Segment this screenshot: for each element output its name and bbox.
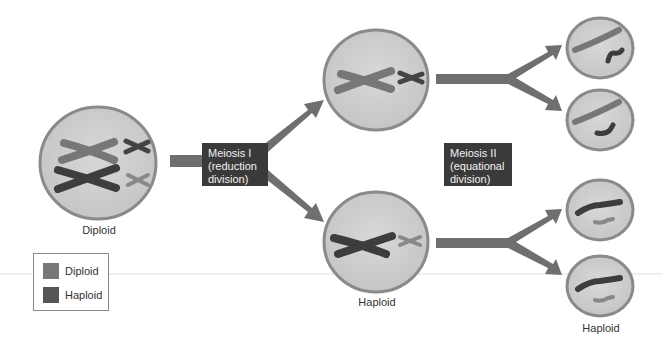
legend-swatch-haploid xyxy=(43,287,59,303)
meiosis2-stage-box: Meiosis II (equational division) xyxy=(444,143,512,186)
label-meiosis1-haploid: Haploid xyxy=(350,296,404,308)
meiosis2-desc-line2: division) xyxy=(450,173,506,186)
label-parent-diploid: Diploid xyxy=(72,224,126,236)
legend-swatch-diploid xyxy=(43,263,59,279)
cell-meiosis2-4 xyxy=(567,256,633,316)
meiosis2-desc-line1: (equational xyxy=(450,160,506,173)
arrow-parent-to-meiosis1 xyxy=(170,155,206,167)
meiosis1-desc-line2: division) xyxy=(208,173,262,186)
legend-item-diploid: Diploid xyxy=(43,263,99,279)
meiosis1-title: Meiosis I xyxy=(208,147,262,160)
cell-meiosis1-top xyxy=(324,30,428,130)
meiosis1-stage-box: Meiosis I (reduction division) xyxy=(202,143,268,186)
cell-meiosis2-2 xyxy=(567,90,633,150)
legend: Diploid Haploid xyxy=(33,253,109,311)
meiosis2-title: Meiosis II xyxy=(450,147,506,160)
legend-item-haploid: Haploid xyxy=(43,287,102,303)
label-meiosis2-haploid: Haploid xyxy=(574,322,628,334)
cell-meiosis2-3 xyxy=(567,180,633,240)
arrow-fork-meiosis2-top xyxy=(436,45,562,111)
legend-label-haploid: Haploid xyxy=(65,289,102,301)
cell-meiosis1-bottom xyxy=(324,192,428,292)
cell-meiosis2-1 xyxy=(567,18,633,78)
cell-parent-diploid xyxy=(40,107,156,219)
meiosis1-desc-line1: (reduction xyxy=(208,160,262,173)
legend-label-diploid: Diploid xyxy=(65,265,99,277)
arrow-fork-meiosis2-bottom xyxy=(436,209,562,275)
meiosis-diagram: Diploid Haploid Haploid Meiosis I (reduc… xyxy=(0,0,662,342)
arrow-fork-meiosis1 xyxy=(262,100,324,222)
